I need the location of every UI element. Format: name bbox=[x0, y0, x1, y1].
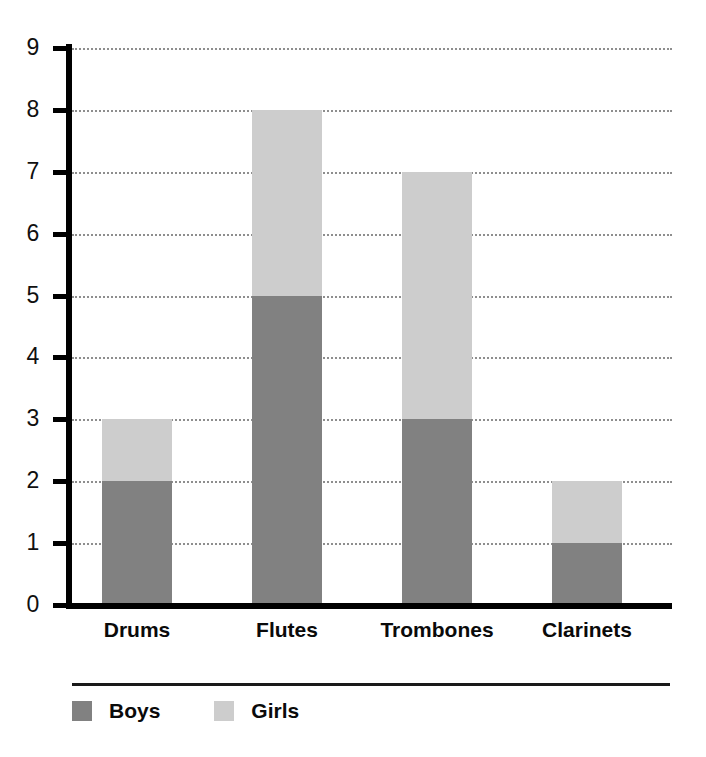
y-tick-6 bbox=[53, 232, 66, 237]
y-tick-7 bbox=[53, 170, 66, 175]
stacked-bar-chart: 0123456789 DrumsFlutesTrombonesClarinets… bbox=[0, 0, 706, 757]
x-axis-label-clarinets: Clarinets bbox=[487, 617, 687, 642]
y-axis-tick-label: 9 bbox=[18, 36, 48, 59]
legend-label-girls: Girls bbox=[251, 700, 299, 721]
legend-swatch-girls bbox=[214, 701, 234, 721]
y-axis-tick-label: 8 bbox=[18, 98, 48, 121]
y-axis-labels: 0123456789 bbox=[0, 0, 706, 757]
y-tick-5 bbox=[53, 294, 66, 299]
y-axis-tick-label: 0 bbox=[18, 593, 48, 616]
legend-divider bbox=[72, 683, 670, 686]
y-tick-9 bbox=[53, 46, 66, 51]
legend-swatch-boys bbox=[72, 701, 92, 721]
y-axis-tick-label: 5 bbox=[18, 284, 48, 307]
y-tick-1 bbox=[53, 541, 66, 546]
y-tick-4 bbox=[53, 355, 66, 360]
y-tick-3 bbox=[53, 417, 66, 422]
y-axis-tick-label: 4 bbox=[18, 345, 48, 368]
y-axis-tick-label: 3 bbox=[18, 407, 48, 430]
legend-label-boys: Boys bbox=[109, 700, 160, 721]
y-tick-0 bbox=[53, 603, 66, 608]
y-axis-tick-label: 1 bbox=[18, 531, 48, 554]
y-axis-tick-label: 2 bbox=[18, 469, 48, 492]
legend-item-girls: Girls bbox=[214, 700, 299, 721]
y-tick-8 bbox=[53, 108, 66, 113]
legend-item-boys: Boys bbox=[72, 700, 160, 721]
y-tick-2 bbox=[53, 479, 66, 484]
y-axis-tick-label: 6 bbox=[18, 222, 48, 245]
chart-legend: Boys Girls bbox=[72, 700, 299, 721]
y-axis-tick-label: 7 bbox=[18, 160, 48, 183]
